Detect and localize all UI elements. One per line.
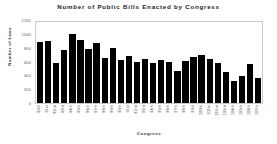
x-axis-tick-slot: 85th bbox=[76, 105, 84, 127]
x-axis-tick-slot: 82nd bbox=[52, 105, 60, 127]
x-axis-tick-slot: 99th bbox=[189, 105, 197, 127]
x-axis-tick: 106th bbox=[248, 105, 252, 115]
bar bbox=[239, 76, 245, 103]
x-axis-tick: 84th bbox=[70, 105, 74, 113]
bar bbox=[255, 78, 261, 103]
x-axis-tick: 102nd bbox=[216, 105, 220, 116]
x-axis-tick: 92nd bbox=[135, 105, 139, 114]
bar bbox=[142, 59, 148, 103]
y-axis-tick: 1200 bbox=[22, 19, 31, 23]
x-axis-tick: 96th bbox=[167, 105, 171, 113]
x-axis-tick: 86th bbox=[87, 105, 91, 113]
chart-figure: Number of Public Bills Enacted by Congre… bbox=[0, 0, 277, 144]
x-axis-tick-slot: 97th bbox=[173, 105, 181, 127]
x-axis-tick: 98th bbox=[184, 105, 188, 113]
bar bbox=[174, 71, 180, 103]
bar bbox=[110, 48, 116, 103]
x-axis-tick: 103rd bbox=[224, 105, 228, 115]
x-axis-tick: 87th bbox=[95, 105, 99, 113]
bar bbox=[207, 59, 213, 103]
x-axis-tick-slot: 101st bbox=[206, 105, 214, 127]
bar-series bbox=[36, 22, 262, 103]
x-axis-tick-slot: 91st bbox=[125, 105, 133, 127]
bar bbox=[247, 64, 253, 103]
bar bbox=[166, 62, 172, 103]
bar bbox=[93, 43, 99, 103]
bar bbox=[182, 61, 188, 103]
bar bbox=[158, 60, 164, 103]
y-axis-tick: 1000 bbox=[22, 33, 31, 37]
bar bbox=[77, 40, 83, 103]
x-axis-tick-slot: 81st bbox=[44, 105, 52, 127]
x-axis-tick-slot: 95th bbox=[157, 105, 165, 127]
bar bbox=[37, 42, 43, 103]
x-axis-tick-slot: 89th bbox=[109, 105, 117, 127]
x-axis-tick-slot: 88th bbox=[101, 105, 109, 127]
bar bbox=[215, 63, 221, 103]
x-axis-tick-slot: 107th bbox=[254, 105, 262, 127]
x-axis-tick-slot: 83rd bbox=[60, 105, 68, 127]
x-axis-tick-slot: 94th bbox=[149, 105, 157, 127]
x-axis-tick-slot: 84th bbox=[68, 105, 76, 127]
x-axis-tick: 88th bbox=[103, 105, 107, 113]
bar bbox=[53, 63, 59, 103]
x-axis-tick: 93rd bbox=[143, 105, 147, 113]
y-axis-tick: 400 bbox=[24, 74, 31, 78]
chart-title: Number of Public Bills Enacted by Congre… bbox=[0, 3, 277, 10]
bar bbox=[118, 60, 124, 103]
x-axis-tick: 104th bbox=[232, 105, 236, 115]
bar bbox=[223, 72, 229, 103]
x-axis-tick: 85th bbox=[79, 105, 83, 113]
x-axis-tick: 80th bbox=[38, 105, 42, 113]
y-axis-ticks: 120010008006004002000 bbox=[0, 21, 33, 104]
x-axis-tick: 91st bbox=[127, 105, 131, 113]
x-axis-tick: 95th bbox=[159, 105, 163, 113]
y-axis-tick: 200 bbox=[24, 88, 31, 92]
bar bbox=[134, 62, 140, 103]
x-axis-tick: 94th bbox=[151, 105, 155, 113]
x-axis-tick: 105th bbox=[240, 105, 244, 115]
x-axis-tick-slot: 105th bbox=[238, 105, 246, 127]
x-axis-tick: 90th bbox=[119, 105, 123, 113]
x-axis-tick-slot: 104th bbox=[230, 105, 238, 127]
x-axis-tick: 89th bbox=[111, 105, 115, 113]
bar bbox=[150, 63, 156, 103]
x-axis-tick: 97th bbox=[176, 105, 180, 113]
bar bbox=[45, 41, 51, 103]
bar bbox=[231, 81, 237, 103]
x-axis-tick-slot: 80th bbox=[36, 105, 44, 127]
bar bbox=[102, 58, 108, 103]
bar bbox=[85, 49, 91, 103]
bar bbox=[198, 55, 204, 103]
x-axis-tick-slot: 102nd bbox=[214, 105, 222, 127]
x-axis-tick-slot: 86th bbox=[84, 105, 92, 127]
x-axis-tick-slot: 93rd bbox=[141, 105, 149, 127]
x-axis-tick-slot: 96th bbox=[165, 105, 173, 127]
x-axis-tick-slot: 98th bbox=[181, 105, 189, 127]
y-axis-tick: 0 bbox=[29, 102, 31, 106]
x-axis-tick: 99th bbox=[192, 105, 196, 113]
bar bbox=[126, 56, 132, 103]
x-axis-label: Congress bbox=[35, 131, 263, 136]
x-axis-tick-slot: 103rd bbox=[222, 105, 230, 127]
x-axis-tick: 101st bbox=[208, 105, 212, 115]
x-axis-tick-slot: 92nd bbox=[133, 105, 141, 127]
bar bbox=[190, 57, 196, 103]
x-axis-ticks: 80th81st82nd83rd84th85th86th87th88th89th… bbox=[36, 105, 262, 127]
x-axis-tick: 100th bbox=[200, 105, 204, 115]
x-axis-tick: 81st bbox=[46, 105, 50, 113]
x-axis-tick-slot: 100th bbox=[198, 105, 206, 127]
x-axis-tick-slot: 106th bbox=[246, 105, 254, 127]
y-axis-tick: 600 bbox=[24, 61, 31, 65]
bar bbox=[69, 34, 75, 103]
x-axis-tick-slot: 87th bbox=[93, 105, 101, 127]
x-axis-tick: 82nd bbox=[54, 105, 58, 114]
x-axis-tick: 107th bbox=[256, 105, 260, 115]
bar bbox=[61, 50, 67, 103]
x-axis-tick-slot: 90th bbox=[117, 105, 125, 127]
x-axis-tick: 83rd bbox=[62, 105, 66, 113]
y-axis-tick: 800 bbox=[24, 47, 31, 51]
